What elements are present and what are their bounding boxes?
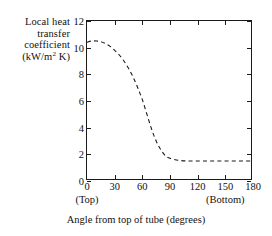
y-axis-label-line-3: coefficient [4, 39, 70, 51]
y-axis-unit-prefix: (kW/m [22, 51, 52, 62]
x-axis-label: Angle from top of tube (degrees) [0, 214, 272, 225]
y-axis-label-units: (kW/m2 K) [4, 51, 70, 63]
y-tick-label-0: 0 [79, 176, 84, 187]
chart-figure: Local heat transfer coefficient (kW/m2 K… [0, 0, 272, 236]
x-annotation-bottom: (Bottom) [206, 194, 245, 205]
data-curve [87, 21, 253, 181]
y-tick-label-6: 6 [79, 96, 84, 107]
y-axis-label-line-1: Local heat [4, 16, 70, 28]
plot-area: 024681012 0306090120150180 (Top)(Bottom) [86, 20, 252, 180]
y-axis-unit-suffix: K) [56, 51, 70, 62]
y-axis-label: Local heat transfer coefficient (kW/m2 K… [4, 16, 70, 62]
x-tick-label-150: 150 [217, 181, 233, 192]
y-tick-label-10: 10 [74, 42, 85, 53]
y-tick-label-2: 2 [79, 149, 84, 160]
y-tick-label-8: 8 [79, 69, 84, 80]
y-tick-label-12: 12 [74, 16, 85, 27]
y-tick-label-4: 4 [79, 122, 84, 133]
x-tick-label-60: 60 [137, 181, 148, 192]
x-tick-label-180: 180 [245, 181, 261, 192]
y-axis-label-line-2: transfer [4, 28, 70, 40]
x-tick-label-30: 30 [109, 181, 120, 192]
x-tick-label-0: 0 [84, 181, 89, 192]
x-tick-label-90: 90 [165, 181, 176, 192]
series-line-local-heat-transfer-coefficient [87, 41, 253, 161]
x-annotation-top: (Top) [75, 194, 98, 205]
x-tick-label-120: 120 [190, 181, 206, 192]
